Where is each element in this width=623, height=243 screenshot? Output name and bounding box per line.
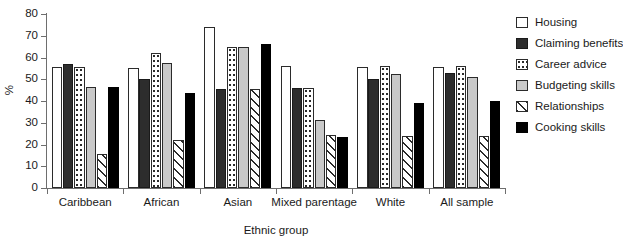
y-axis-tick-label: 10 xyxy=(4,160,38,171)
x-axis-group-label: All sample xyxy=(421,196,513,209)
legend-swatch-icon xyxy=(516,80,528,91)
legend-item[interactable]: Cooking skills xyxy=(516,117,611,137)
legend-item[interactable]: Claiming benefits xyxy=(516,33,611,53)
bar xyxy=(445,73,456,188)
x-axis-tick xyxy=(276,189,277,194)
y-axis-tick-label: 40 xyxy=(4,95,38,106)
bar xyxy=(414,103,425,188)
chart-legend: HousingClaiming benefitsCareer adviceBud… xyxy=(516,12,611,138)
legend-item-label: Cooking skills xyxy=(535,121,605,133)
bar xyxy=(216,89,227,188)
bar xyxy=(108,87,119,188)
bar xyxy=(281,66,292,188)
legend-item-label: Relationships xyxy=(535,100,604,112)
bar xyxy=(303,88,314,188)
bar xyxy=(467,77,478,188)
bar xyxy=(261,44,272,188)
x-axis-tick xyxy=(505,189,506,194)
bar xyxy=(74,67,85,188)
y-axis-tick-label: 50 xyxy=(4,73,38,84)
plot-area xyxy=(47,14,505,188)
legend-item-label: Career advice xyxy=(535,58,607,70)
legend-item-label: Claiming benefits xyxy=(535,37,623,49)
bar xyxy=(52,67,63,188)
bar xyxy=(368,79,379,188)
bar xyxy=(292,88,303,188)
x-axis-tick xyxy=(123,189,124,194)
legend-swatch-icon xyxy=(516,17,528,28)
bar xyxy=(402,136,413,188)
bar xyxy=(250,89,261,188)
legend-swatch-icon xyxy=(516,59,528,70)
bar xyxy=(337,137,348,188)
legend-item[interactable]: Career advice xyxy=(516,54,611,74)
bar xyxy=(433,67,444,188)
x-axis-tick xyxy=(47,189,48,194)
bar xyxy=(456,66,467,188)
x-axis-tick xyxy=(200,189,201,194)
legend-swatch-icon xyxy=(516,122,528,133)
bar xyxy=(151,53,162,188)
bar xyxy=(357,67,368,188)
bar xyxy=(204,27,215,188)
x-axis-title: Ethnic group xyxy=(47,224,505,236)
x-axis-tick xyxy=(429,189,430,194)
bar xyxy=(479,136,490,188)
bar xyxy=(391,74,402,188)
legend-item[interactable]: Housing xyxy=(516,12,611,32)
legend-swatch-icon xyxy=(516,38,528,49)
bar xyxy=(128,68,139,188)
legend-item[interactable]: Relationships xyxy=(516,96,611,116)
bar xyxy=(315,120,326,189)
bar xyxy=(162,63,173,188)
y-axis-tick-label: 70 xyxy=(4,30,38,41)
bar xyxy=(139,79,150,188)
bar xyxy=(326,135,337,188)
bar xyxy=(490,101,501,188)
y-axis-tick-label: 60 xyxy=(4,52,38,63)
bar xyxy=(227,47,238,188)
bar xyxy=(173,140,184,188)
bar xyxy=(238,47,249,188)
legend-item-label: Housing xyxy=(535,16,577,28)
bar xyxy=(63,64,74,188)
legend-item[interactable]: Budgeting skills xyxy=(516,75,611,95)
y-axis-tick-label: 30 xyxy=(4,117,38,128)
bar xyxy=(97,154,108,188)
y-axis-tick-label: 80 xyxy=(4,8,38,19)
y-axis-tick-label: 0 xyxy=(4,182,38,193)
legend-item-label: Budgeting skills xyxy=(535,79,615,91)
bar xyxy=(86,87,97,188)
x-axis-tick xyxy=(352,189,353,194)
bar xyxy=(380,66,391,188)
y-axis-tick-label: 20 xyxy=(4,139,38,150)
bar xyxy=(185,93,196,188)
legend-swatch-icon xyxy=(516,101,528,112)
